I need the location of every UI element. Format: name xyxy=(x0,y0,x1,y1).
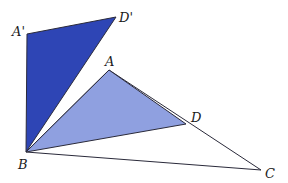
label-a: A xyxy=(104,54,114,69)
geometry-diagram: A' D' A D B C xyxy=(0,0,288,183)
label-d: D xyxy=(190,110,202,125)
label-a-prime: A' xyxy=(11,24,25,39)
label-c: C xyxy=(265,166,275,181)
label-d-prime: D' xyxy=(118,10,133,25)
label-b: B xyxy=(17,157,28,172)
